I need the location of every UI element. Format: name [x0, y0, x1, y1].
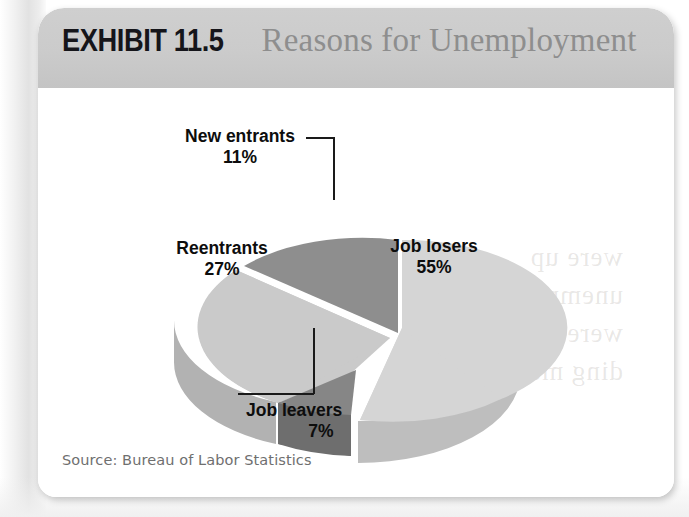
slice-label-job-losers-pct: 55%: [354, 257, 514, 278]
exhibit-header-text: EXHIBIT 11.5 Reasons for Unemployment: [62, 22, 637, 59]
slice-label-new-entrants: New entrants 11%: [160, 126, 320, 168]
slice-label-job-leavers-pct: 7%: [246, 421, 396, 442]
chart-plot-area: were up unemploy were low ding mea: [38, 88, 674, 497]
exhibit-number-label: EXHIBIT 11.5: [62, 23, 224, 59]
exhibit-card: EXHIBIT 11.5 Reasons for Unemployment we…: [38, 8, 674, 497]
slice-label-reentrants: Reentrants 27%: [142, 238, 302, 280]
slice-label-reentrants-name: Reentrants: [176, 238, 267, 258]
slice-label-job-losers: Job losers 55%: [354, 236, 514, 278]
slice-label-job-losers-name: Job losers: [390, 236, 478, 256]
slice-label-job-leavers: Job leavers 7%: [246, 400, 436, 442]
slice-label-reentrants-pct: 27%: [142, 259, 302, 280]
exhibit-page: EXHIBIT 11.5 Reasons for Unemployment we…: [0, 0, 689, 517]
exhibit-header-band: EXHIBIT 11.5 Reasons for Unemployment: [38, 8, 674, 88]
slice-label-new-entrants-name: New entrants: [185, 126, 295, 146]
chart-source-note: Source: Bureau of Labor Statistics: [62, 452, 312, 468]
slice-label-new-entrants-pct: 11%: [160, 147, 320, 168]
slice-label-job-leavers-name: Job leavers: [246, 400, 342, 420]
exhibit-title: Reasons for Unemployment: [262, 22, 637, 59]
